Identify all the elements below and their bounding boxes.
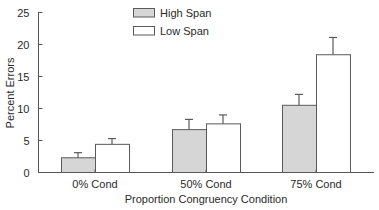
- bar-group: 0% Cond: [62, 139, 130, 190]
- bar-group: 75% Cond: [283, 37, 351, 190]
- x-axis-label: Proportion Congruency Condition: [125, 193, 288, 205]
- bar: [207, 124, 241, 173]
- bar-chart: 0510152025 0% Cond50% Cond75% Cond High …: [0, 0, 379, 210]
- legend: High SpanLow Span: [134, 7, 212, 37]
- y-tick-label: 15: [17, 71, 29, 83]
- x-tick-label: 0% Cond: [72, 178, 117, 190]
- y-tick-label: 20: [17, 39, 29, 51]
- bar: [317, 55, 351, 173]
- y-tick-label: 0: [23, 167, 29, 179]
- x-tick-label: 75% Cond: [290, 178, 341, 190]
- legend-item: High Span: [134, 7, 212, 19]
- bar: [96, 144, 130, 172]
- bars: 0% Cond50% Cond75% Cond: [62, 37, 351, 190]
- y-axis-label: Percent Errors: [4, 57, 16, 128]
- y-tick-label: 25: [17, 7, 29, 19]
- bar: [62, 158, 96, 173]
- legend-swatch: [134, 9, 155, 18]
- legend-swatch: [134, 27, 155, 36]
- y-tick-label: 10: [17, 103, 29, 115]
- bar: [283, 105, 317, 172]
- y-tick-label: 5: [23, 135, 29, 147]
- legend-label: High Span: [160, 7, 211, 19]
- legend-label: Low Span: [160, 25, 209, 37]
- bar: [173, 130, 207, 173]
- x-tick-label: 50% Cond: [180, 178, 231, 190]
- bar-group: 50% Cond: [173, 115, 241, 190]
- legend-item: Low Span: [134, 25, 209, 37]
